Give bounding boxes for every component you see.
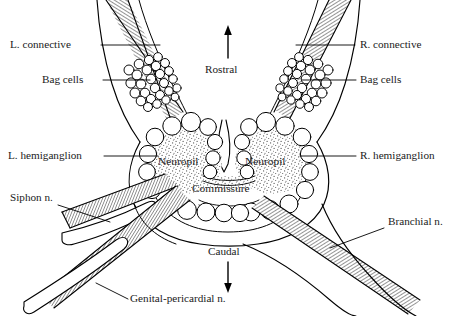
label-right-hemiganglion: R. hemiganglion [360, 150, 435, 161]
label-siphon-nerve: Siphon n. [10, 192, 53, 203]
label-right-bag-cells: Bag cells [360, 74, 401, 85]
label-left-connective: L. connective [10, 39, 71, 50]
label-left-hemiganglion: L. hemiganglion [8, 150, 82, 161]
label-right-connective: R. connective [360, 39, 422, 50]
label-caudal: Caudal [208, 246, 240, 257]
label-branchial-nerve: Branchial n. [388, 216, 443, 227]
label-commissure: Commissure [192, 183, 250, 194]
label-genital-pericardial-nerve: Genital-pericardial n. [130, 293, 226, 304]
label-neuropil-right: Neuropil [245, 156, 286, 167]
label-left-bag-cells: Bag cells [42, 74, 83, 85]
ganglion-figure: L. connective Bag cells L. hemiganglion … [0, 0, 457, 316]
label-neuropil-left: Neuropil [158, 156, 199, 167]
label-rostral: Rostral [205, 64, 237, 75]
